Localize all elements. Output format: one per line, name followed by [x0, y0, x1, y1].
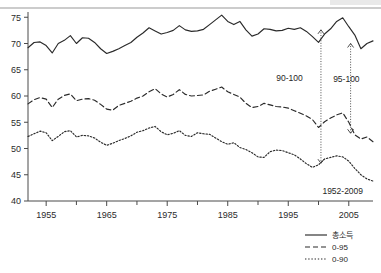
legend-label: 0-90 — [332, 255, 349, 264]
y-tick-label: 50 — [11, 144, 21, 154]
x-tick-label: 1995 — [278, 210, 298, 220]
scan-artifact-patch — [330, 0, 381, 5]
chart-annotation: 95-100 — [333, 74, 360, 84]
x-tick-label: 1955 — [36, 210, 56, 220]
x-tick-label: 1985 — [218, 210, 238, 220]
y-tick-label: 75 — [11, 13, 21, 23]
y-tick-label: 40 — [11, 196, 21, 206]
y-tick-label: 70 — [11, 39, 21, 49]
chart-annotation: 1952-2009 — [322, 186, 363, 196]
chart-annotation: 90-100 — [276, 73, 303, 83]
x-tick-label: 1965 — [97, 210, 117, 220]
y-tick-label: 55 — [11, 118, 21, 128]
legend-label: 0-95 — [332, 243, 349, 252]
legend-label: 총소득 — [332, 231, 353, 240]
y-tick-label: 65 — [11, 65, 21, 75]
chart-background — [0, 0, 381, 273]
x-tick-label: 1975 — [157, 210, 177, 220]
y-tick-label: 45 — [11, 170, 21, 180]
chart-container: 4045505560657075 19551965197519851995200… — [0, 0, 381, 273]
x-tick-label: 2005 — [339, 210, 359, 220]
income-share-line-chart: 4045505560657075 19551965197519851995200… — [0, 0, 381, 273]
y-tick-label: 60 — [11, 91, 21, 101]
